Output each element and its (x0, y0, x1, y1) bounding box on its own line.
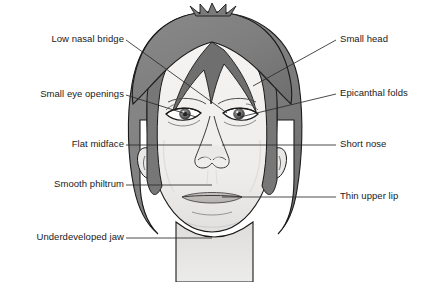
label-epicanthal-folds: Epicanthal folds (340, 87, 408, 98)
label-short-nose: Short nose (340, 138, 386, 149)
label-smooth-philtrum: Smooth philtrum (0, 178, 124, 189)
facial-features-diagram: Low nasal bridge Small eye openings Flat… (0, 0, 424, 282)
label-thin-upper-lip: Thin upper lip (340, 190, 398, 201)
label-underdeveloped-jaw: Underdeveloped jaw (0, 231, 124, 242)
label-flat-midface: Flat midface (0, 138, 124, 149)
label-small-eye-openings: Small eye openings (0, 88, 124, 99)
label-low-nasal-bridge: Low nasal bridge (0, 33, 124, 44)
label-small-head: Small head (340, 33, 388, 44)
